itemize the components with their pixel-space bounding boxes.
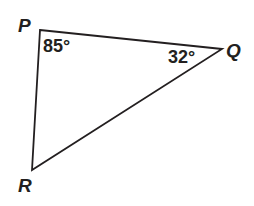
vertex-label-q: Q — [226, 40, 241, 61]
angle-label-q: 32° — [168, 47, 195, 67]
angle-label-p: 85° — [43, 36, 70, 56]
vertex-label-p: P — [18, 15, 31, 36]
triangle-pqr-diagram: P Q R 85° 32° — [0, 0, 254, 206]
vertex-label-r: R — [18, 175, 32, 196]
